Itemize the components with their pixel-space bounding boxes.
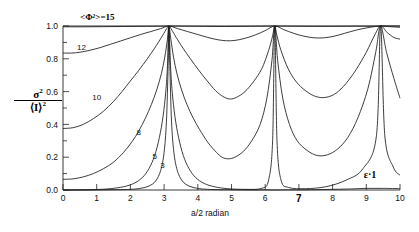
y-tick-label-3: 0.6 (46, 87, 58, 97)
plot-frame (63, 26, 400, 190)
curve-10 (63, 26, 400, 129)
chart-title: <Φ²>=15 (80, 12, 115, 22)
chart-root: σ2 ⟨I⟩2 0.0 0.2 0.4 0. (0, 0, 419, 232)
y-tick-label-5: 1.0 (46, 21, 58, 31)
x-tick-label-6: 6 (263, 193, 268, 203)
x-tick-label-7: 7 (296, 193, 302, 204)
curve-12 (63, 26, 400, 53)
x-tick-label-8: 8 (330, 193, 335, 203)
curve-group (63, 26, 400, 190)
y-axis-tick-labels: 0.0 0.2 0.4 0.6 0.8 1.0 (46, 21, 58, 195)
curve-8 (63, 26, 400, 179)
curve-label-10: 10 (92, 93, 101, 102)
x-tick-label-1: 1 (94, 193, 99, 203)
x-axis-tick-labels: 0 1 2 3 4 5 6 7 8 9 10 (61, 193, 405, 204)
chart-canvas: 0.0 0.2 0.4 0.6 0.8 1.0 0 1 2 3 4 5 (0, 0, 419, 232)
curve-label-5: 5 (152, 152, 157, 161)
x-tick-label-10: 10 (395, 193, 405, 203)
curve-label-8: 8 (137, 128, 142, 137)
x-axis-label: a/2 radian (191, 208, 229, 218)
y-tick-label-0: 0.0 (46, 185, 58, 195)
epsilon-annotation: ε·1 (364, 169, 377, 180)
x-tick-label-3: 3 (162, 193, 167, 203)
curve-label-3: 3 (160, 161, 165, 170)
y-tick-label-4: 0.8 (46, 54, 58, 64)
x-tick-label-2: 2 (128, 193, 133, 203)
y-axis-ticks (63, 26, 69, 190)
y-tick-label-1: 0.2 (46, 152, 58, 162)
x-tick-label-0: 0 (61, 193, 66, 203)
curve-label-group: 3581012 (77, 43, 165, 170)
x-tick-label-9: 9 (364, 193, 369, 203)
curve-5 (63, 26, 400, 190)
x-tick-label-4: 4 (195, 193, 200, 203)
y-tick-label-2: 0.4 (46, 120, 58, 130)
curve-label-12: 12 (77, 43, 86, 52)
x-tick-label-5: 5 (229, 193, 234, 203)
curve-3 (63, 26, 400, 190)
